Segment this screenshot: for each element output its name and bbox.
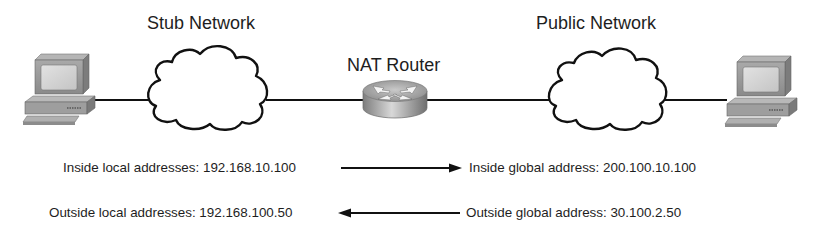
inside-translation-arrow <box>341 164 462 173</box>
inside-global-address: Inside global address: 200.100.10.100 <box>469 160 696 175</box>
outside-local-address: Outside local addresses: 192.168.100.50 <box>49 205 292 220</box>
public-network-cloud-icon <box>549 49 666 130</box>
outside-host-pc-icon <box>725 56 797 127</box>
public-network-label: Public Network <box>536 13 656 34</box>
nat-topology <box>0 0 820 237</box>
inside-local-address: Inside local addresses: 192.168.10.100 <box>63 160 296 175</box>
stub-network-cloud-icon <box>148 46 267 130</box>
nat-router-label: NAT Router <box>347 55 440 76</box>
outside-translation-arrow <box>338 209 460 218</box>
inside-host-pc-icon <box>23 54 95 125</box>
nat-router-icon <box>363 81 427 119</box>
outside-global-address: Outside global address: 30.100.2.50 <box>466 205 681 220</box>
stub-network-label: Stub Network <box>147 13 255 34</box>
